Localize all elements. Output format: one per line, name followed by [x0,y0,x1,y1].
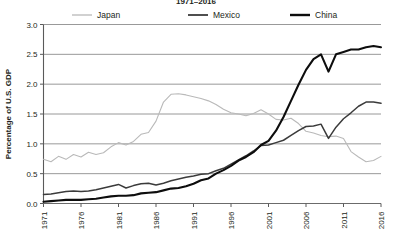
legend-label-japan: Japan [97,10,120,20]
series-line-china [44,46,382,202]
xtick-label-1981: 1981 [115,211,124,229]
ytick-label-1.0: 1.0 [26,140,38,149]
xtick-label-1976: 1976 [77,211,86,229]
series-line-mexico [44,102,382,194]
ytick-label-0.5: 0.5 [26,170,38,179]
ytick-label-2.5: 2.5 [26,50,38,59]
xtick-label-1996: 1996 [227,211,236,229]
ytick-label-1.5: 1.5 [26,110,38,119]
legend-label-china: China [315,10,337,20]
xtick-label-1986: 1986 [152,211,161,229]
xtick-label-1971: 1971 [40,211,49,229]
series-line-japan [44,94,382,162]
ytick-label-0.0: 0.0 [26,200,38,209]
xtick-label-2011: 2011 [340,211,349,229]
xtick-label-2001: 2001 [265,211,274,229]
line-chart: 1971–2016JapanMexicoChina0.00.51.01.52.0… [0,0,393,249]
xtick-label-1991: 1991 [190,211,199,229]
ytick-label-2.0: 2.0 [26,80,38,89]
xtick-label-2006: 2006 [302,211,311,229]
chart-title: 1971–2016 [176,0,217,6]
y-axis-title: Percentage of U.S. GDP [4,68,13,159]
legend-label-mexico: Mexico [213,10,240,20]
chart-canvas: 1971–2016JapanMexicoChina0.00.51.01.52.0… [0,0,393,249]
xtick-label-2016: 2016 [377,211,386,229]
ytick-label-3.0: 3.0 [26,21,38,30]
